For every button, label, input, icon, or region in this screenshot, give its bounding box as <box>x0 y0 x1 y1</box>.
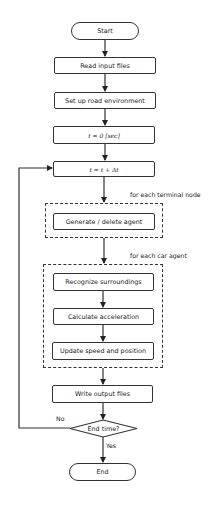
car-agent-loop-label: for each car agent <box>130 252 187 259</box>
read-input-step: Read input files <box>54 57 156 74</box>
write-output-step: Write output files <box>52 385 153 403</box>
start-label: Start <box>97 27 113 35</box>
setup-road-step: Set up road environment <box>54 92 156 109</box>
generate-delete-step: Generate / delete agent <box>53 213 155 230</box>
time-step-label: t = t + Δt <box>89 166 118 173</box>
terminal-node-loop-label: for each terminal node <box>130 191 201 198</box>
setup-road-label: Set up road environment <box>65 97 145 105</box>
calc-accel-step: Calculate acceleration <box>53 308 154 325</box>
end-terminal: End <box>69 463 136 481</box>
update-speed-step: Update speed and position <box>52 342 154 360</box>
time-init-step: t = 0 [sec] <box>53 126 155 144</box>
decision-label: End time? <box>70 420 137 437</box>
time-step-step: t = t + Δt <box>53 161 155 177</box>
time-init-label: t = 0 [sec] <box>88 132 120 139</box>
decision-no-label: No <box>56 415 64 422</box>
recognize-step: Recognize surroundings <box>53 273 154 291</box>
end-label: End <box>96 468 108 476</box>
write-output-label: Write output files <box>75 390 130 398</box>
update-speed-label: Update speed and position <box>60 347 146 355</box>
generate-delete-label: Generate / delete agent <box>66 218 143 226</box>
recognize-label: Recognize surroundings <box>65 278 141 286</box>
read-input-label: Read input files <box>80 62 130 70</box>
start-terminal: Start <box>71 22 139 40</box>
calc-accel-label: Calculate acceleration <box>68 313 139 321</box>
decision-yes-label: Yes <box>106 442 116 449</box>
